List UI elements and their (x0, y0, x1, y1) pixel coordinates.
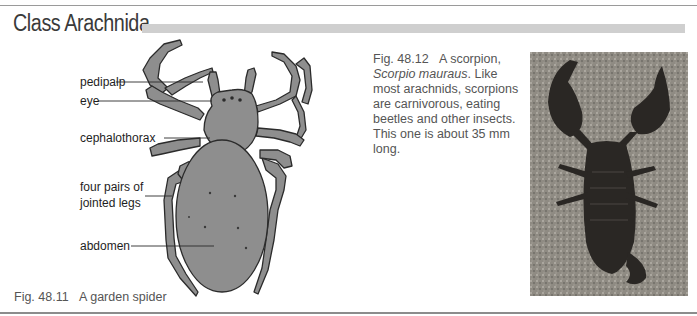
scorpion-caption: Fig. 48.12 A scorpion, Scorpio mauraus. … (373, 52, 523, 157)
scorpion-caption-number: Fig. 48.12 (373, 52, 429, 66)
scorpion-species-name: Scorpio mauraus (373, 67, 468, 81)
spider-caption: Fig. 48.11 A garden spider (14, 290, 167, 304)
spider-caption-text: A garden spider (79, 290, 167, 304)
bottom-rule (0, 312, 697, 314)
label-eye: eye (80, 94, 99, 109)
label-abdomen: abdomen (80, 239, 130, 254)
label-pedipalp: pedipalp (80, 75, 125, 90)
scorpion-photo (530, 52, 688, 296)
label-legs-line2: jointed legs (80, 196, 141, 211)
scorpion-caption-title: A scorpion, (439, 52, 501, 66)
spider-caption-number: Fig. 48.11 (14, 290, 69, 304)
label-legs-line1: four pairs of (80, 180, 143, 195)
label-cephalothorax: cephalothorax (80, 131, 155, 146)
